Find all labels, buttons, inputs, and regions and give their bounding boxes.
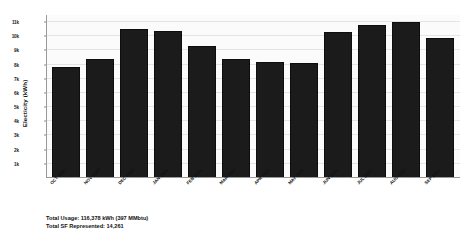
x-label-slot: OCT 2020 xyxy=(49,179,83,213)
y-tick-label: 3k xyxy=(0,133,19,138)
bar[interactable] xyxy=(290,63,318,178)
bar[interactable] xyxy=(324,32,352,178)
bar-slot xyxy=(287,15,321,178)
bar-slot xyxy=(83,15,117,178)
bar-slot xyxy=(185,15,219,178)
bar-slot xyxy=(219,15,253,178)
bar[interactable] xyxy=(358,25,386,178)
total-sf-text: Total SF Represented: 14,261 xyxy=(46,222,148,230)
y-tick-mark xyxy=(44,64,46,65)
y-tick-mark xyxy=(44,92,46,93)
bar[interactable] xyxy=(222,59,250,178)
y-tick-label: 1k xyxy=(0,161,19,166)
bar[interactable] xyxy=(392,22,420,178)
bar[interactable] xyxy=(120,29,148,178)
bar-slot xyxy=(355,15,389,178)
bar[interactable] xyxy=(188,46,216,178)
x-label-slot: DEC 2020 xyxy=(117,179,151,213)
y-tick-label: 8k xyxy=(0,62,19,67)
y-tick-label: 5k xyxy=(0,105,19,110)
total-usage-text: Total Usage: 116,378 kWh (397 MMbtu) xyxy=(46,214,148,222)
bar[interactable] xyxy=(86,59,114,178)
x-label-slot: MAR 2021 xyxy=(219,179,253,213)
electricity-usage-bar-chart: Electicity (kWh) 1k2k3k4k5k6k7k8k9k10k11… xyxy=(0,0,470,251)
x-label-slot: FEB 2021 xyxy=(185,179,219,213)
chart-footer-totals: Total Usage: 116,378 kWh (397 MMbtu) Tot… xyxy=(46,214,148,230)
y-tick-mark xyxy=(44,149,46,150)
y-tick-mark xyxy=(44,107,46,108)
x-label-slot: SEP 2021 xyxy=(423,179,457,213)
x-label-slot: JUN 2021 xyxy=(321,179,355,213)
y-tick-mark xyxy=(44,36,46,37)
x-label-slot: APR 2021 xyxy=(253,179,287,213)
x-label-slot: NOV 2020 xyxy=(83,179,117,213)
plot-area xyxy=(46,15,460,178)
bar-slot xyxy=(117,15,151,178)
y-tick-mark xyxy=(44,50,46,51)
y-tick-label: 10k xyxy=(0,34,19,39)
x-axis-tick-labels: OCT 2020NOV 2020DEC 2020JAN 2021FEB 2021… xyxy=(46,179,460,213)
bar-slot xyxy=(423,15,457,178)
bar[interactable] xyxy=(426,38,454,178)
y-axis-line xyxy=(46,15,47,178)
y-tick-label: 9k xyxy=(0,48,19,53)
bar-slot xyxy=(49,15,83,178)
y-tick-mark xyxy=(44,22,46,23)
y-tick-label: 2k xyxy=(0,147,19,152)
bar-series xyxy=(46,15,460,178)
x-label-slot: JAN 2021 xyxy=(151,179,185,213)
bar[interactable] xyxy=(154,31,182,178)
bar-slot xyxy=(321,15,355,178)
y-tick-label: 11k xyxy=(0,20,19,25)
y-axis-title: Electicity (kWh) xyxy=(21,44,28,164)
y-tick-label: 7k xyxy=(0,76,19,81)
bar[interactable] xyxy=(52,67,80,178)
bar-slot xyxy=(151,15,185,178)
y-tick-mark xyxy=(44,163,46,164)
y-tick-mark xyxy=(44,135,46,136)
y-tick-mark xyxy=(44,78,46,79)
bar-slot xyxy=(389,15,423,178)
y-tick-label: 6k xyxy=(0,90,19,95)
y-tick-label: 4k xyxy=(0,119,19,124)
bar[interactable] xyxy=(256,62,284,178)
x-label-slot: AUG 2021 xyxy=(389,179,423,213)
x-label-slot: JUL 2021 xyxy=(355,179,389,213)
bar-slot xyxy=(253,15,287,178)
x-label-slot: MAY 2021 xyxy=(287,179,321,213)
y-tick-mark xyxy=(44,121,46,122)
